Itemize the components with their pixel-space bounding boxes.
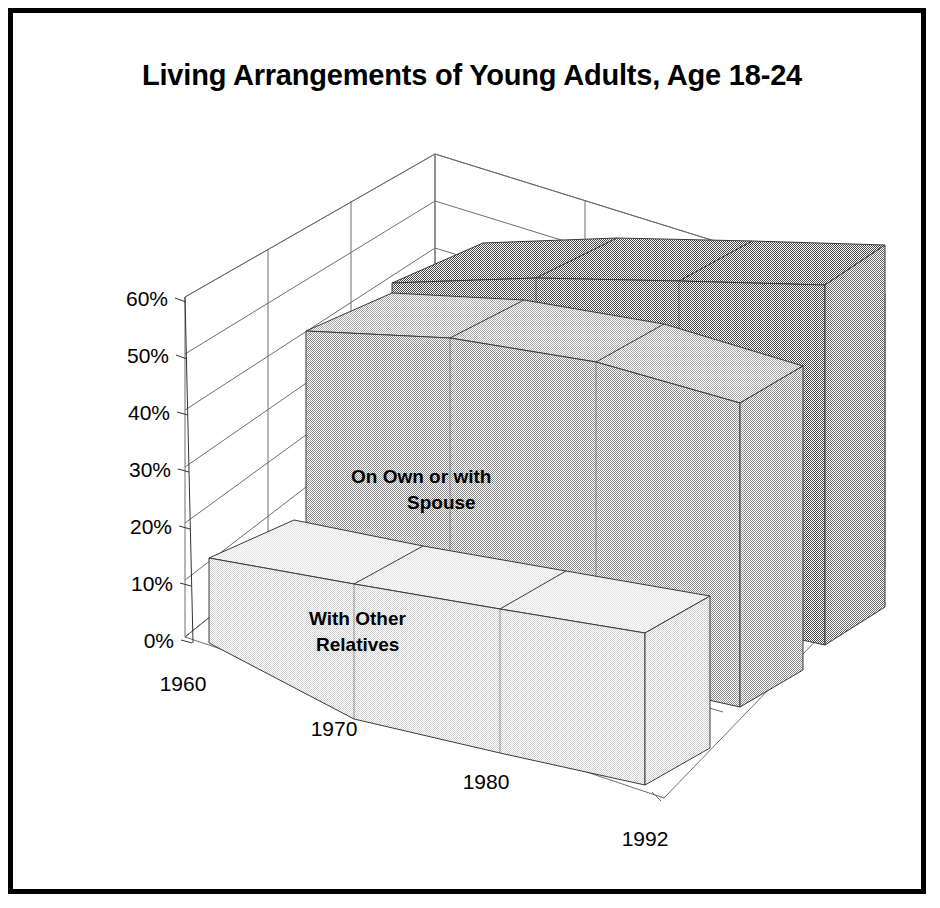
series-label-with-other-line1: With Other	[309, 608, 407, 629]
y-axis	[175, 297, 193, 643]
y-tick-label-20: 20%	[130, 515, 172, 538]
x-tick-label-1992: 1992	[622, 827, 669, 850]
series-label-on-own-line2: Spouse	[407, 492, 476, 513]
x-tick-label-1960: 1960	[160, 672, 207, 695]
with-parents-right-face	[825, 245, 885, 645]
y-tick-label-50: 50%	[127, 344, 169, 367]
y-tick-label-60: 60%	[126, 287, 168, 310]
x-tick-label-1980: 1980	[463, 770, 510, 793]
y-tick-60	[175, 298, 186, 302]
series-label-with-other-line2: Relatives	[316, 634, 399, 655]
chart-frame-border: Living Arrangements of Young Adults, Age…	[8, 8, 926, 894]
x-tick-label-1970: 1970	[311, 717, 358, 740]
y-axis-tick-labels: 60% 50% 40% 30% 20% 10% 0%	[126, 287, 174, 652]
on-own-right-face	[740, 366, 803, 707]
y-axis-line	[185, 297, 193, 643]
series-label-on-own-line1: On Own or with	[351, 466, 491, 487]
y-tick-label-10: 10%	[131, 572, 173, 595]
chart-svg: With Parents On Own or with Spo	[13, 13, 931, 899]
chart-page: Living Arrangements of Young Adults, Age…	[0, 0, 940, 908]
y-tick-40	[177, 412, 188, 415]
grid-left-60	[185, 154, 435, 297]
y-tick-label-0: 0%	[144, 629, 174, 652]
with-parents-top	[392, 238, 885, 285]
y-tick-label-40: 40%	[128, 401, 170, 424]
chart-plot-area: With Parents On Own or with Spo	[13, 13, 931, 899]
y-tick-label-30: 30%	[129, 458, 171, 481]
y-tick-30	[178, 469, 189, 472]
y-tick-0	[181, 640, 192, 643]
